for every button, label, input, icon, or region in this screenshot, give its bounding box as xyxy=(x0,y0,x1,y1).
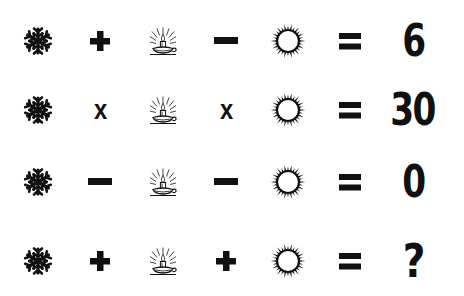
plus-icon xyxy=(208,231,244,291)
equals-icon xyxy=(330,80,370,140)
equals-icon xyxy=(330,152,370,212)
equation-row-2: x x 30 xyxy=(0,80,464,140)
equals-icon xyxy=(330,231,370,291)
snowflake-icon xyxy=(18,231,58,291)
snowflake-icon xyxy=(18,11,58,71)
equation-row-3: 0 xyxy=(0,152,464,212)
result-value: 0 xyxy=(385,152,441,212)
result-text: 30 xyxy=(391,88,436,132)
result-text: 0 xyxy=(402,160,424,204)
minus-icon xyxy=(82,152,118,212)
plus-icon xyxy=(82,11,118,71)
equation-row-1: 6 xyxy=(0,11,464,71)
multiply-text: x xyxy=(220,96,232,124)
result-value: 6 xyxy=(385,11,441,71)
question-mark: ? xyxy=(403,238,424,284)
result-text: 6 xyxy=(402,19,424,63)
multiply-text: x xyxy=(94,96,106,124)
multiply-icon: x xyxy=(208,80,244,140)
candle-icon xyxy=(143,11,183,71)
result-value: 30 xyxy=(385,80,441,140)
multiply-icon: x xyxy=(82,80,118,140)
sun-icon xyxy=(268,231,308,291)
candle-icon xyxy=(143,80,183,140)
equation-row-4: ? xyxy=(0,231,464,291)
minus-icon xyxy=(208,152,244,212)
math-puzzle: 6 x x 30 xyxy=(0,0,464,296)
snowflake-icon xyxy=(18,80,58,140)
sun-icon xyxy=(268,80,308,140)
equals-icon xyxy=(330,11,370,71)
result-unknown: ? xyxy=(385,231,441,291)
minus-icon xyxy=(208,11,244,71)
snowflake-icon xyxy=(18,152,58,212)
sun-icon xyxy=(268,152,308,212)
sun-icon xyxy=(268,11,308,71)
candle-icon xyxy=(143,152,183,212)
candle-icon xyxy=(143,231,183,291)
plus-icon xyxy=(82,231,118,291)
